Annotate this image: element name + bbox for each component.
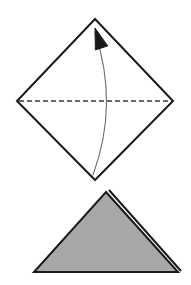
origami-fold-figure (0, 0, 191, 285)
figure-canvas (0, 0, 191, 285)
